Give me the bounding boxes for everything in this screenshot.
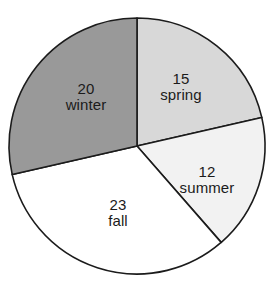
pie-chart: 15 spring 12 summer 23 fall 20 winter (0, 0, 274, 292)
pie-slice-group (9, 18, 265, 274)
pie-slice-winter (9, 18, 137, 175)
pie-chart-svg (0, 0, 274, 292)
